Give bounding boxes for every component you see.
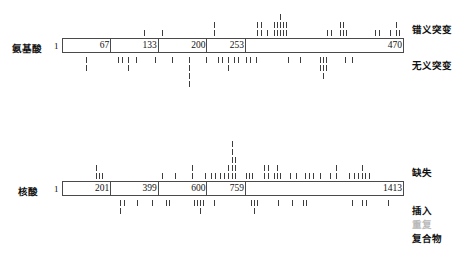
nonsense-tick (320, 57, 321, 63)
nonsense-tick (256, 57, 257, 63)
deletion-tick (268, 165, 269, 171)
missense-tick (257, 30, 258, 36)
nonsense-tick (323, 73, 324, 79)
nonsense-tick (189, 65, 190, 71)
insertion-tick (194, 200, 195, 206)
deletion-tick (228, 165, 229, 171)
missense-tick (340, 30, 341, 36)
deletion-tick (232, 173, 233, 179)
missense-tick (280, 14, 281, 20)
nonsense-tick (320, 65, 321, 71)
insertion-tick (120, 200, 121, 206)
amino-acid-segment: 470 (246, 39, 403, 52)
insertion-tick (214, 200, 215, 206)
amino-acid-segment-end-number: 253 (230, 38, 244, 52)
amino-acid-start-number: 1 (54, 41, 59, 51)
deletion-tick (252, 173, 253, 179)
deletion-tick (320, 173, 321, 179)
nonsense-tick (189, 73, 190, 79)
missense-tick (327, 30, 328, 36)
deletion-tick (232, 165, 233, 171)
deletion-tick (362, 173, 363, 179)
nonsense-tick (118, 57, 119, 63)
deletion-tick (264, 165, 265, 171)
missense-tick (214, 22, 215, 28)
missense-tick (390, 30, 391, 36)
deletion-tick (336, 173, 337, 179)
nonsense-tick (222, 57, 223, 63)
missense-tick (280, 30, 281, 36)
insertion-tick (388, 200, 389, 206)
deletion-tick (224, 173, 225, 179)
nonsense-tick (128, 65, 129, 71)
nucleic-acid-segment: 759 (208, 182, 246, 195)
nucleic-acid-bar: 2013996007591413 (62, 181, 404, 196)
nonsense-tick (326, 65, 327, 71)
missense-tick (261, 30, 262, 36)
deletion-tick (369, 173, 370, 179)
deletion-tick (290, 173, 291, 179)
missense-tick (277, 22, 278, 28)
deletion-tick (96, 165, 97, 171)
deletion-tick (175, 173, 176, 179)
nucleic-acid-row-label: 核酸 (18, 184, 38, 198)
deletion-tick (211, 173, 212, 179)
nonsense-tick (172, 57, 173, 63)
missense-tick (277, 30, 278, 36)
deletion-tick (274, 173, 275, 179)
missense-tick (399, 30, 400, 36)
legend-label-deletion: 缺失 (412, 165, 432, 179)
deletion-tick (99, 173, 100, 179)
amino-acid-segment-end-number: 200 (191, 38, 205, 52)
deletion-tick (296, 173, 297, 179)
missense-tick (283, 30, 284, 36)
missense-tick (286, 22, 287, 28)
insertion-tick (200, 208, 201, 214)
nucleic-acid-segment-end-number: 600 (191, 181, 205, 195)
insertion-tick (203, 200, 204, 206)
insertion-tick (152, 200, 153, 206)
nonsense-tick (323, 57, 324, 63)
deletion-tick (246, 173, 247, 179)
amino-acid-segment-end-number: 67 (100, 38, 110, 52)
amino-acid-segment: 253 (208, 39, 246, 52)
insertion-tick (292, 200, 293, 206)
insertion-tick (137, 200, 138, 206)
missense-tick (257, 22, 258, 28)
nucleic-acid-segment: 1413 (246, 182, 403, 195)
amino-acid-segment-end-number: 133 (143, 38, 157, 52)
nucleic-acid-segment-end-number: 201 (95, 181, 109, 195)
deletion-tick (235, 157, 236, 163)
missense-tick (375, 30, 376, 36)
deletion-tick (232, 149, 233, 155)
deletion-tick (305, 173, 306, 179)
nucleic-acid-segment: 600 (159, 182, 208, 195)
missense-tick (396, 30, 397, 36)
legend-label-complex: 复合物 (412, 231, 442, 245)
legend-label-duplication: 重复 (412, 217, 432, 231)
deletion-tick (362, 165, 363, 171)
insertion-tick (200, 200, 201, 206)
mutation-distribution-figure: 氨基酸 1 67133200253470 核酸 1 20139960075914… (0, 0, 464, 257)
deletion-tick (235, 173, 236, 179)
nonsense-tick (86, 57, 87, 63)
missense-tick (340, 22, 341, 28)
nonsense-tick (189, 81, 190, 87)
nonsense-tick (128, 57, 129, 63)
missense-tick (343, 22, 344, 28)
missense-tick (144, 30, 145, 36)
deletion-tick (336, 165, 337, 171)
insertion-tick (254, 208, 255, 214)
insertion-tick (197, 200, 198, 206)
amino-acid-segment-end-number: 470 (388, 38, 402, 52)
missense-tick (162, 30, 163, 36)
insertion-tick (124, 200, 125, 206)
nucleic-acid-segment-end-number: 399 (143, 181, 157, 195)
missense-tick (274, 30, 275, 36)
legend-label-insertion: 插入 (412, 203, 432, 217)
nucleic-acid-segment-end-number: 759 (230, 181, 244, 195)
deletion-tick (228, 173, 229, 179)
insertion-tick (278, 200, 279, 206)
insertion-tick (306, 200, 307, 206)
missense-tick (396, 22, 397, 28)
